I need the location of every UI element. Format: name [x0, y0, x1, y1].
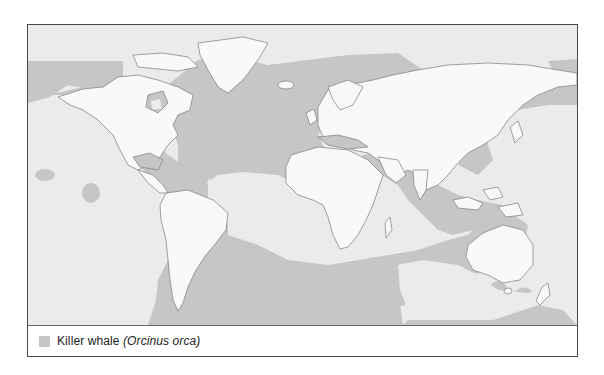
legend-swatch-killer-whale [39, 336, 50, 347]
map-legend: Killer whale (Orcinus orca) [28, 326, 577, 356]
legend-scientific-name: (Orcinus orca) [123, 334, 200, 348]
world-range-map [28, 25, 577, 326]
legend-label: Killer whale (Orcinus orca) [57, 334, 200, 348]
legend-common-name: Killer whale [57, 334, 120, 348]
map-figure: Killer whale (Orcinus orca) [27, 24, 578, 357]
